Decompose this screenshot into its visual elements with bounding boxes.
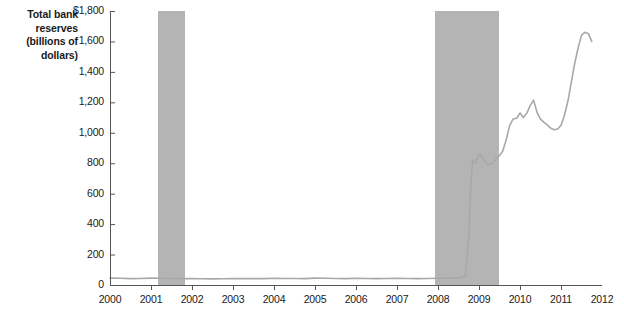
- y-tick-label-1400: 1,400: [38, 65, 104, 77]
- x-tick-label-2002: 2002: [170, 293, 214, 305]
- y-axis-title-line-4: dollars): [0, 49, 78, 63]
- y-tick-label-1000: 1,000: [38, 126, 104, 138]
- y-tick-label-600: 600: [38, 187, 104, 199]
- y-tick-label-400: 400: [38, 217, 104, 229]
- x-tick-label-2001: 2001: [129, 293, 173, 305]
- y-tick-label-800: 800: [38, 156, 104, 168]
- x-tick-label-2006: 2006: [334, 293, 378, 305]
- x-tick-label-2009: 2009: [457, 293, 501, 305]
- y-tick-label-1600: 1,600: [38, 34, 104, 46]
- x-tick-label-2008: 2008: [416, 293, 460, 305]
- x-tick-label-2005: 2005: [293, 293, 337, 305]
- y-tick-label-0: 0: [38, 278, 104, 290]
- y-tick-label-200: 200: [38, 248, 104, 260]
- x-tick-label-2003: 2003: [211, 293, 255, 305]
- y-tick-label-1200: 1,200: [38, 95, 104, 107]
- x-tick-label-2011: 2011: [539, 293, 583, 305]
- x-tick-label-2000: 2000: [88, 293, 132, 305]
- series-polyline-total-bank-reserves: [110, 32, 592, 279]
- series-line-layer: [110, 11, 602, 285]
- x-tick-label-2010: 2010: [498, 293, 542, 305]
- bank-reserves-chart: Total bank reserves (billions of dollars…: [0, 0, 624, 313]
- x-tick-label-2012: 2012: [580, 293, 624, 305]
- x-tick-label-2007: 2007: [375, 293, 419, 305]
- y-tick-label-1800: $1,800: [38, 4, 104, 16]
- y-axis-title-line-2: reserves: [0, 22, 78, 36]
- x-tick-label-2004: 2004: [252, 293, 296, 305]
- plot-area: [110, 11, 602, 285]
